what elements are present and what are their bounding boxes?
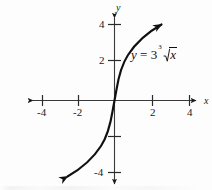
x-tick-label-neg2: -2 <box>73 107 82 118</box>
radicand: x <box>169 47 177 61</box>
y-tick-label-pos2: 2 <box>99 55 105 66</box>
x-tick-label-neg4: -4 <box>37 107 46 118</box>
graph-figure: -4 -2 2 4 4 2 -4 y x y = 3 3 x <box>0 0 212 190</box>
x-tick-label-pos2: 2 <box>150 107 156 118</box>
y-tick-label-pos4: 4 <box>99 19 105 30</box>
coordinate-plane <box>0 0 212 190</box>
scan-artifact <box>0 186 212 190</box>
radical-index: 3 <box>158 44 162 51</box>
y-axis-label: y <box>116 3 120 13</box>
y-tick-label-neg4: -4 <box>94 167 103 178</box>
equation-annotation: y = 3 3 x <box>131 47 177 62</box>
cube-root-radical: 3 x <box>157 47 177 62</box>
x-tick-label-pos4: 4 <box>187 107 193 118</box>
x-axis-label: x <box>204 96 208 106</box>
